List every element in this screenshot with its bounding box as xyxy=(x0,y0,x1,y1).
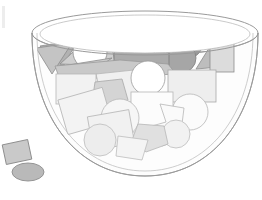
shapes-outside-bowl xyxy=(2,140,44,181)
circle-lower-left xyxy=(84,124,116,156)
quadrilateral-lower-left xyxy=(116,136,148,160)
rectangle-outside-bowl xyxy=(2,140,32,165)
bowl-rim xyxy=(32,11,258,55)
rim-inner-ellipse xyxy=(40,15,250,53)
bowl-illustration xyxy=(0,0,262,200)
circle-white-center xyxy=(131,61,165,95)
rim-outer-ellipse xyxy=(32,11,258,55)
scene-canvas: Bowl of assorted geometric shapes A tran… xyxy=(0,0,262,200)
left-edge-artifact xyxy=(2,6,5,28)
ellipse-outside-bowl xyxy=(12,163,44,181)
